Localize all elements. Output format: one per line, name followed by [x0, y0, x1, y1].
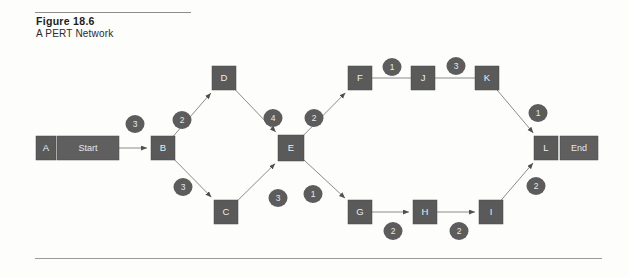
weight-value: 3 — [181, 182, 186, 192]
node-label-l: L — [543, 142, 548, 153]
edge-weight-k-l: 1 — [529, 104, 548, 122]
weight-value: 3 — [454, 61, 459, 71]
weight-value: 1 — [390, 62, 395, 72]
weight-value: 1 — [311, 189, 316, 199]
node-j: J — [411, 66, 435, 90]
node-label-start: Start — [78, 143, 98, 153]
weight-value: 2 — [180, 115, 185, 125]
node-i: I — [479, 200, 503, 224]
figure-page: Figure 18.6 A PERT Network AStartBDCEFJK… — [0, 0, 629, 277]
node-label-f: F — [357, 72, 363, 83]
node-h: H — [413, 200, 437, 224]
node-label-i: I — [490, 206, 493, 217]
node-d: D — [212, 66, 236, 90]
node-a: A — [36, 136, 56, 160]
node-label-g: G — [356, 206, 363, 217]
weight-value: 2 — [534, 181, 539, 191]
node-g: G — [348, 200, 372, 224]
node-l: L — [534, 136, 558, 160]
node-label-b: B — [160, 142, 166, 153]
edge-weight-b-d: 2 — [173, 111, 192, 129]
edge-weight-start-b: 3 — [126, 115, 145, 133]
node-k: K — [475, 66, 499, 90]
edge-k-to-l — [497, 90, 533, 133]
edge-weight-e-f: 2 — [305, 109, 324, 127]
edge-weight-j-k: 3 — [447, 57, 466, 75]
node-label-k: K — [484, 72, 491, 83]
edge-weight-b-c: 3 — [174, 178, 193, 196]
node-e: E — [278, 135, 304, 161]
node-label-c: C — [223, 206, 230, 217]
edge-weight-e-g: 1 — [304, 185, 323, 203]
weight-value: 2 — [391, 226, 396, 236]
node-label-a: A — [43, 142, 50, 153]
node-c: C — [214, 200, 238, 224]
pert-network-diagram: AStartBDCEFJKGHILEnd 3243321311222 — [0, 0, 629, 277]
weight-value: 3 — [133, 119, 138, 129]
node-label-end: End — [571, 143, 587, 153]
weight-value: 1 — [536, 108, 541, 118]
node-start: Start — [57, 136, 119, 160]
node-end: End — [560, 136, 598, 160]
node-label-h: H — [422, 206, 429, 217]
weight-value: 3 — [276, 193, 281, 203]
weight-value: 2 — [457, 226, 462, 236]
edge-weight-h-i: 2 — [450, 222, 469, 240]
node-f: F — [348, 66, 372, 90]
node-b: B — [151, 136, 175, 160]
weight-value: 2 — [312, 113, 317, 123]
edge-weight-f-j: 1 — [383, 58, 402, 76]
node-label-d: D — [221, 72, 228, 83]
edge-weight-g-h: 2 — [384, 222, 403, 240]
edge-weight-i-l: 2 — [527, 177, 546, 195]
weight-value: 4 — [271, 113, 276, 123]
figure-divider-bottom — [35, 258, 602, 259]
edge-weight-d-e: 4 — [264, 109, 283, 127]
node-label-j: J — [421, 72, 426, 83]
node-label-e: E — [288, 142, 294, 153]
edge-weight-c-e: 3 — [269, 189, 288, 207]
